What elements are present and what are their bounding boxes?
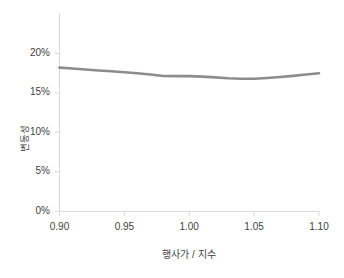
chart-canvas [0,0,344,278]
x-tick-label-090: 0.90 [40,221,80,232]
x-axis-ticks [60,212,320,217]
x-tick-label-100: 1.00 [169,221,209,232]
y-tick-label-15: 15% [16,86,50,97]
y-axis-ticks [55,53,60,211]
y-axis-title: 변동성 [17,108,31,168]
x-axis-title: 행사가 / 지수 [119,246,259,261]
volatility-smile-chart: 20% 15% 10% 5% 0% 0.90 0.95 1.00 1.05 1.… [0,0,344,278]
x-tick-label-105: 1.05 [234,221,274,232]
data-series-line [60,68,320,79]
y-tick-label-20: 20% [16,47,50,58]
x-tick-label-110: 1.10 [299,221,339,232]
y-tick-label-0: 0% [16,205,50,216]
x-tick-label-095: 0.95 [104,221,144,232]
